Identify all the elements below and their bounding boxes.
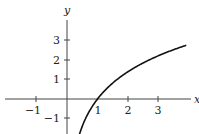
x-tick-label: 2: [125, 104, 132, 117]
x-axis-label: x: [194, 93, 199, 106]
y-tick-label: 1: [53, 73, 60, 86]
y-axis-label: y: [63, 4, 71, 17]
x-tick-label: 1: [95, 104, 102, 117]
y-tick-label: 2: [53, 54, 60, 67]
y-tick-label: 3: [53, 34, 60, 47]
curve-line: [79, 45, 186, 134]
y-tick-label: −1: [44, 112, 60, 125]
x-tick-label: 3: [155, 104, 162, 117]
x-tick-label: −1: [25, 104, 41, 117]
chart: −1 1 2 3 3 2 1 −1 y x: [0, 0, 199, 134]
